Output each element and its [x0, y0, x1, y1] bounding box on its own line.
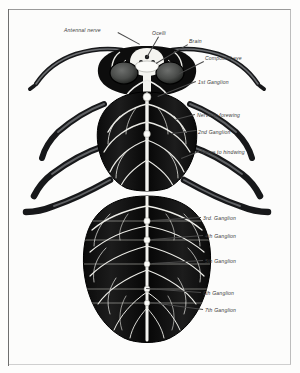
insect-anatomy-svg	[0, 0, 300, 373]
illustration-plate: Antennal nerveOcelliBrainCompound eye1st…	[0, 0, 300, 373]
label-fourth-ganglion: 4th Ganglion	[205, 234, 236, 239]
ganglion-7	[144, 300, 150, 306]
label-antennal-nerve: Antennal nerve	[64, 28, 101, 33]
ganglion-5	[144, 261, 150, 267]
ganglion-2	[144, 131, 151, 138]
label-nerve-forewing: Nerve to forewing	[197, 113, 240, 118]
label-compound-eye: Compound eye	[205, 56, 242, 61]
label-fifth-ganglion: 5th Ganglion	[205, 259, 236, 264]
ganglion-3	[144, 218, 150, 224]
label-seventh-ganglion: 7th Ganglion	[205, 308, 236, 313]
compound-eye-left	[110, 62, 138, 84]
label-first-ganglion: 1st Ganglion	[198, 80, 229, 85]
specimen-figure	[0, 0, 300, 373]
label-nerve-hindwing: Nerve to hindwing	[201, 150, 245, 155]
label-sixth-ganglion: 6th Ganglion	[203, 291, 234, 296]
label-third-ganglion: 3rd. Ganglion	[203, 216, 236, 221]
label-ocelli: Ocelli	[152, 31, 166, 36]
ganglion-4	[144, 237, 150, 243]
label-second-ganglion: 2nd Ganglion	[198, 130, 230, 135]
thorax	[97, 92, 197, 191]
label-brain: Brain	[189, 39, 202, 44]
ganglion-1	[143, 93, 151, 101]
